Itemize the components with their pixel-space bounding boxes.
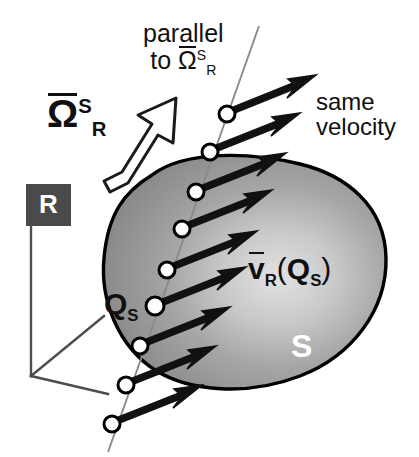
label-parallel-to-omega: parallel to ΩSR <box>143 20 224 73</box>
rigid-body-outline <box>103 155 386 389</box>
same-velocity-line1: same <box>316 88 375 115</box>
omega-subscript-inline: R <box>206 62 216 78</box>
frame-label-R: R <box>26 184 71 226</box>
point-marker <box>104 416 120 432</box>
axis-horizontal <box>31 376 108 394</box>
omega-subscript: R <box>92 118 107 140</box>
frame-label-R-text: R <box>39 191 58 218</box>
velocity-close-paren: ) <box>321 252 331 285</box>
label-velocity-vR-QS: vR(QS) <box>248 253 331 284</box>
axis-diagonal <box>31 316 104 376</box>
label-parallel-prefix: to <box>150 46 178 74</box>
point-marker <box>202 144 218 160</box>
label-point-QS: QS <box>104 288 139 319</box>
point-marker-QS <box>146 297 164 315</box>
body-label-S-text: S <box>291 328 312 364</box>
reference-frame-axes <box>31 214 108 394</box>
point-marker <box>159 262 175 278</box>
velocity-open-paren: ( <box>277 252 287 285</box>
velocity-v-symbol: v <box>248 253 265 284</box>
QS-subscript: S <box>127 306 138 325</box>
same-velocity-line2: velocity <box>316 115 396 140</box>
label-parallel-line2: to ΩSR <box>143 47 224 73</box>
point-marker <box>219 106 235 122</box>
label-same-velocity: same velocity <box>316 90 396 140</box>
omega-superscript-inline: S <box>197 47 206 63</box>
velocity-arrow <box>229 75 316 112</box>
omega-symbol: Ω <box>47 94 78 135</box>
point-marker <box>118 377 134 393</box>
omega-superscript: S <box>78 95 92 117</box>
point-marker <box>132 338 148 354</box>
velocity-Q-subscript: S <box>310 271 321 290</box>
label-parallel-line1: parallel <box>143 19 224 47</box>
body-label-S: S <box>291 330 312 363</box>
point-marker <box>188 184 204 200</box>
point-marker <box>174 221 190 237</box>
velocity-v-subscript: R <box>265 271 277 290</box>
QS-base: Q <box>104 287 127 320</box>
label-angular-velocity: ΩSR <box>47 94 106 135</box>
omega-symbol-inline: Ω <box>178 47 197 73</box>
figure-canvas: parallel to ΩSR ΩSR same velocity R QS v… <box>0 0 419 457</box>
velocity-Q-symbol: Q <box>287 252 310 285</box>
